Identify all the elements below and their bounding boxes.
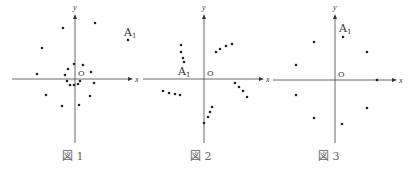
- data-point: [79, 80, 82, 83]
- data-point: [69, 84, 72, 87]
- data-point: [64, 74, 67, 77]
- data-point: [94, 22, 97, 25]
- data-point: [182, 57, 185, 60]
- data-point: [234, 82, 237, 85]
- data-point: [77, 83, 80, 86]
- data-point: [36, 73, 39, 76]
- data-point: [180, 51, 183, 54]
- data-point: [376, 79, 379, 82]
- figure-2: xyOA1図 2: [143, 3, 270, 163]
- y-axis-label: y: [72, 3, 77, 12]
- data-point: [179, 94, 182, 97]
- data-point: [225, 45, 228, 48]
- data-point: [73, 63, 76, 66]
- data-point: [78, 104, 81, 107]
- y-axis-arrow-icon: [73, 14, 77, 19]
- figure-1: xyOA1図 1: [12, 3, 139, 163]
- data-point: [90, 71, 93, 74]
- data-point: [211, 106, 214, 109]
- x-axis-label: x: [398, 76, 403, 85]
- data-point: [93, 82, 96, 85]
- origin-label: O: [338, 70, 345, 79]
- data-point: [215, 51, 218, 54]
- data-point: [313, 41, 316, 44]
- data-point: [62, 27, 65, 30]
- data-point: [231, 43, 234, 46]
- data-point: [219, 48, 222, 51]
- data-point: [67, 68, 70, 71]
- data-point: [342, 36, 345, 39]
- data-point: [238, 86, 241, 89]
- data-point: [168, 92, 171, 95]
- data-point: [366, 107, 369, 110]
- data-point: [207, 116, 210, 119]
- point-label-a1: A1: [338, 22, 351, 36]
- x-axis-arrow-icon: [392, 78, 397, 82]
- data-point: [295, 64, 298, 67]
- data-point: [89, 95, 92, 98]
- data-point: [242, 90, 245, 93]
- data-point: [162, 90, 165, 93]
- y-axis-label: y: [332, 3, 337, 12]
- data-point: [61, 105, 64, 108]
- data-point: [66, 80, 69, 83]
- data-point: [82, 64, 85, 67]
- origin-label: O: [207, 69, 214, 78]
- data-point: [183, 61, 186, 64]
- data-point: [313, 117, 316, 120]
- y-axis-label: y: [201, 3, 206, 12]
- data-point: [295, 94, 298, 97]
- data-point: [366, 51, 369, 54]
- data-point: [246, 96, 249, 99]
- data-point: [203, 122, 206, 125]
- figures-canvas: xyOA1図 1xyOA1図 2xyOA1図 3: [0, 0, 413, 173]
- data-point: [45, 94, 48, 97]
- x-axis-arrow-icon: [128, 77, 133, 81]
- data-point: [341, 123, 344, 126]
- point-label-a1: A1: [177, 65, 190, 79]
- x-axis-arrow-icon: [259, 77, 264, 81]
- figure-caption: 図 3: [318, 150, 340, 163]
- data-point: [127, 39, 130, 42]
- x-axis-label: x: [265, 75, 270, 84]
- x-axis-label: x: [134, 75, 139, 84]
- y-axis-arrow-icon: [202, 14, 206, 19]
- data-point: [180, 44, 183, 47]
- data-point: [209, 111, 212, 114]
- y-axis-arrow-icon: [333, 14, 337, 19]
- figure-3: xyOA1図 3: [273, 3, 403, 163]
- figure-caption: 図 2: [190, 150, 212, 163]
- data-point: [73, 84, 76, 87]
- point-label-a1: A1: [123, 26, 136, 40]
- data-point: [41, 47, 44, 50]
- figure-caption: 図 1: [62, 150, 84, 163]
- data-point: [174, 93, 177, 96]
- origin-label: O: [78, 69, 85, 78]
